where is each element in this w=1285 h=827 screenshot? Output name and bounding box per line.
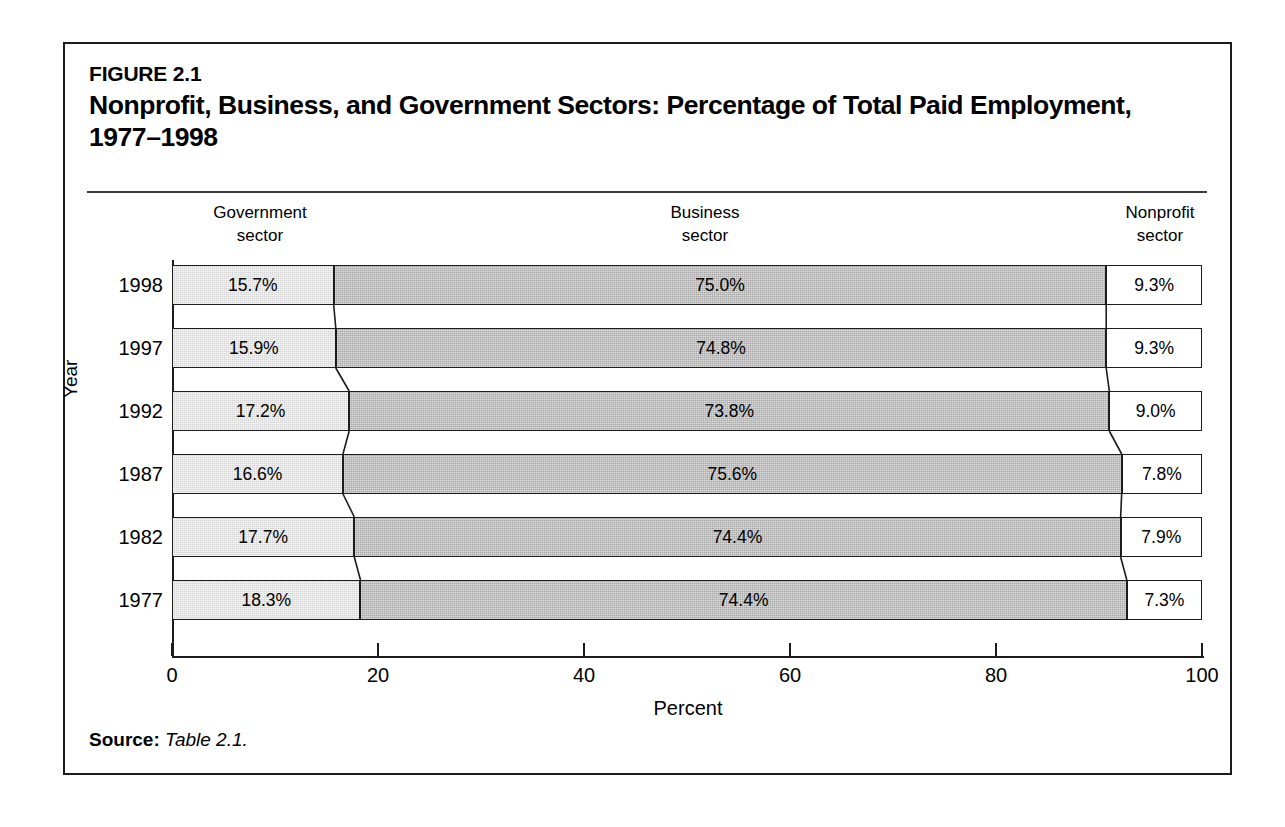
bar-segment-government: 16.6%: [172, 454, 343, 494]
y-axis-category-label: 1982: [93, 517, 163, 557]
column-header-government: Government sector: [172, 202, 348, 247]
bar-segment-nonprofit: 7.9%: [1121, 517, 1202, 557]
x-axis-tick-label: 100: [1185, 664, 1218, 687]
bar-segment-business: 74.4%: [354, 517, 1120, 557]
bar-segment-business: 75.6%: [343, 454, 1122, 494]
x-axis-tick-label: 80: [985, 664, 1007, 687]
x-axis-tick: [583, 643, 585, 656]
y-axis-category-label: 1977: [93, 580, 163, 620]
page-title: Nonprofit, Business, and Government Sect…: [89, 89, 1179, 153]
x-axis-tick-label: 40: [573, 664, 595, 687]
bar-segment-nonprofit: 9.3%: [1106, 265, 1202, 305]
bar-segment-government: 18.3%: [172, 580, 360, 620]
bar-row: 15.7%75.0%9.3%: [172, 265, 1202, 305]
bar-row: 17.2%73.8%9.0%: [172, 391, 1202, 431]
bar-segment-government: 17.2%: [172, 391, 349, 431]
y-axis-category-label: 1997: [93, 328, 163, 368]
x-axis-tick: [377, 643, 379, 656]
bar-segment-government: 15.9%: [172, 328, 336, 368]
connector-line: [1121, 557, 1127, 580]
figure-number: FIGURE 2.1: [89, 62, 1199, 86]
chart-region: Government sector Business sector Nonpro…: [65, 202, 1234, 722]
connector-line: [336, 368, 349, 391]
title-block: FIGURE 2.1 Nonprofit, Business, and Gove…: [89, 62, 1199, 153]
bar-row: 15.9%74.8%9.3%: [172, 328, 1202, 368]
source-value: Table 2.1.: [165, 729, 248, 750]
bar-segment-nonprofit: 7.3%: [1127, 580, 1202, 620]
column-header-business: Business sector: [625, 202, 785, 247]
x-axis-tick-label: 60: [779, 664, 801, 687]
source-label: Source:: [89, 729, 160, 750]
x-axis-line: [172, 656, 1204, 658]
bar-segment-business: 74.8%: [336, 328, 1106, 368]
y-axis-title: Year: [60, 360, 82, 398]
y-axis-category-label: 1998: [93, 265, 163, 305]
bar-segment-nonprofit: 7.8%: [1122, 454, 1202, 494]
connector-line: [1109, 431, 1121, 454]
connector-line: [343, 431, 349, 454]
bar-segment-government: 15.7%: [172, 265, 334, 305]
bar-row: 18.3%74.4%7.3%: [172, 580, 1202, 620]
title-divider: [87, 191, 1207, 193]
bar-segment-nonprofit: 9.0%: [1109, 391, 1202, 431]
bar-segment-business: 74.4%: [360, 580, 1126, 620]
bar-row: 17.7%74.4%7.9%: [172, 517, 1202, 557]
plot-area: Percent 02040608010015.7%75.0%9.3%15.9%7…: [172, 260, 1202, 658]
y-axis-category-label: 1987: [93, 454, 163, 494]
y-axis-category-label: 1992: [93, 391, 163, 431]
bar-segment-nonprofit: 9.3%: [1106, 328, 1202, 368]
figure-frame: FIGURE 2.1 Nonprofit, Business, and Gove…: [63, 42, 1232, 775]
connector-line: [1121, 494, 1122, 517]
bar-segment-business: 75.0%: [334, 265, 1107, 305]
connector-line: [1106, 368, 1109, 391]
bar-segment-government: 17.7%: [172, 517, 354, 557]
x-axis-tick: [171, 643, 173, 656]
connector-line: [334, 305, 336, 328]
column-header-nonprofit: Nonprofit sector: [1100, 202, 1220, 247]
bar-segment-business: 73.8%: [349, 391, 1109, 431]
x-axis-tick: [789, 643, 791, 656]
x-axis-tick: [1201, 643, 1203, 656]
source-note: Source: Table 2.1.: [89, 729, 248, 751]
connector-line: [354, 557, 360, 580]
x-axis-title: Percent: [172, 697, 1204, 720]
x-axis-tick: [995, 643, 997, 656]
bar-row: 16.6%75.6%7.8%: [172, 454, 1202, 494]
x-axis-tick-label: 20: [367, 664, 389, 687]
connector-line: [343, 494, 354, 517]
x-axis-tick-label: 0: [166, 664, 177, 687]
